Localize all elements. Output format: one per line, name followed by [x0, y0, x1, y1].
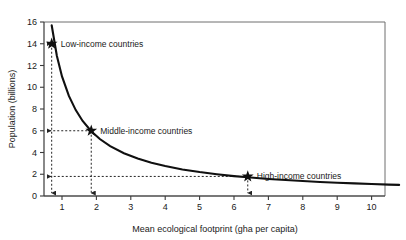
x-tick-label: 8	[300, 202, 305, 212]
chart-container: 12345678910 0246810121416 Low-income cou…	[0, 0, 406, 240]
x-tick-label: 2	[94, 202, 99, 212]
x-tick-label: 10	[367, 202, 377, 212]
y-tick-label: 10	[27, 82, 37, 92]
population-footprint-chart: 12345678910 0246810121416 Low-income cou…	[0, 0, 406, 240]
y-axis-title: Population (billions)	[7, 70, 17, 149]
y-tick-label: 0	[32, 191, 37, 201]
x-tick-label: 4	[163, 202, 168, 212]
x-tick-label: 3	[128, 202, 133, 212]
x-tick-label: 9	[335, 202, 340, 212]
x-tick-label: 6	[231, 202, 236, 212]
x-tick-label: 5	[197, 202, 202, 212]
y-tick-label: 6	[32, 126, 37, 136]
x-tick-label: 7	[266, 202, 271, 212]
annotation-label: High-income countries	[257, 171, 342, 181]
x-tick-label: 1	[59, 202, 64, 212]
x-axis-title: Mean ecological footprint (gha per capit…	[132, 224, 298, 234]
y-tick-label: 4	[32, 148, 37, 158]
y-tick-label: 12	[27, 61, 37, 71]
annotation-label: Middle-income countries	[100, 126, 192, 136]
y-tick-label: 14	[27, 39, 37, 49]
annotation-label: Low-income countries	[61, 39, 144, 49]
y-tick-label: 8	[32, 104, 37, 114]
y-tick-label: 2	[32, 169, 37, 179]
y-tick-label: 16	[27, 17, 37, 27]
